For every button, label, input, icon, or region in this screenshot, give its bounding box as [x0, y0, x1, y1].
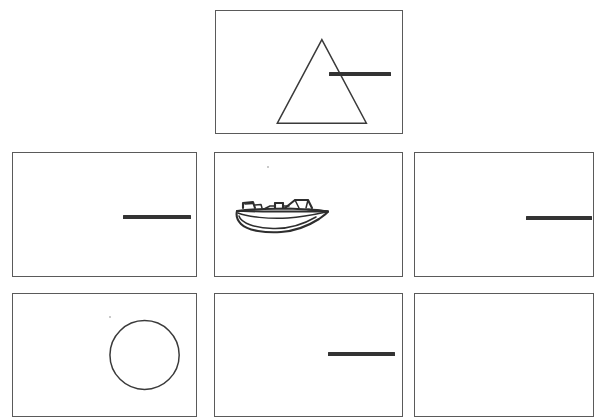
boat-drawing — [233, 189, 331, 237]
image-canvas — [0, 0, 606, 420]
horizontal-bar — [123, 215, 191, 219]
panel-middle-left — [12, 152, 197, 277]
panel-top-center — [215, 10, 403, 134]
horizontal-bar — [526, 216, 592, 220]
panel-bottom-center — [214, 293, 403, 417]
panel-middle-center — [214, 152, 403, 277]
panel-middle-right — [414, 152, 594, 277]
panel-bottom-right — [414, 293, 594, 417]
paper-speck — [267, 166, 269, 168]
panel-bottom-left-graphics — [13, 294, 196, 416]
panel-bottom-right-graphics — [415, 294, 593, 416]
circle-shape — [110, 321, 179, 390]
triangle-shape — [277, 40, 366, 124]
boat-svg — [233, 189, 331, 237]
panel-bottom-left — [12, 293, 197, 417]
horizontal-bar — [329, 72, 391, 76]
horizontal-bar — [328, 352, 395, 356]
